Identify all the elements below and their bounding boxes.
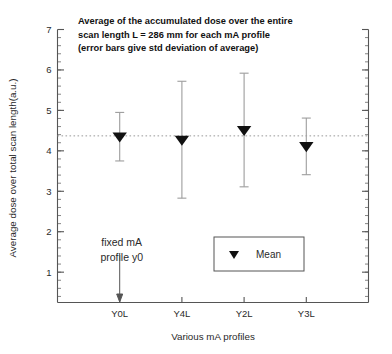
x-axis-ticks [120,297,307,303]
chart-title-line: Average of the accumulated dose over the… [78,16,293,26]
y-tick-label: 6 [46,64,51,75]
data-point-marker [175,136,189,146]
x-tick-label: Y3L [298,308,315,319]
y-tick-label: 4 [46,145,51,156]
y-axis-title: Average dose over total scan length(a.u.… [7,79,18,258]
x-tick-label: Y0L [111,308,128,319]
y-tick-label: 5 [46,105,51,116]
legend-label: Mean [256,249,281,260]
chart-figure: 1234567 Y0LY4LY2LY3L Average of the accu… [0,0,392,354]
chart-canvas: 1234567 Y0LY4LY2LY3L Average of the accu… [0,0,392,354]
chart-title: Average of the accumulated dose over the… [78,16,293,53]
y-axis-tick-labels: 1234567 [46,24,51,278]
x-tick-label: Y2L [236,308,253,319]
data-point-marker [113,132,127,142]
y-tick-label: 3 [46,186,51,197]
y-axis-label: Average dose over total scan length(a.u.… [7,79,18,258]
annotation-line: profile y0 [100,251,143,263]
annotation-fixed-ma-profile: fixed mAprofile y0 [100,236,143,302]
chart-title-line: (error bars give std deviation of averag… [78,43,258,53]
data-point-marker [237,126,251,136]
data-markers [113,126,314,152]
x-axis-label: Various mA profiles [171,331,255,342]
error-bars [115,73,311,198]
y-tick-label: 7 [46,24,51,35]
x-axis-title: Various mA profiles [171,331,255,342]
x-axis-tick-labels: Y0LY4LY2LY3L [111,308,315,319]
annotation-arrow-head [117,294,123,302]
y-tick-label: 2 [46,226,51,237]
y-tick-label: 1 [46,267,51,278]
x-tick-label: Y4L [173,308,190,319]
annotation-line: fixed mA [101,236,142,248]
chart-title-line: scan length L = 286 mm for each mA profi… [78,30,270,40]
data-point-marker [299,142,313,152]
chart-legend: Mean [214,237,304,271]
